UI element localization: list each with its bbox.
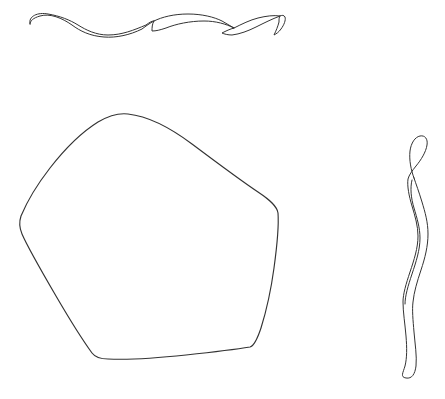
drawing-canvas bbox=[0, 0, 445, 399]
canvas-background bbox=[0, 0, 445, 399]
ink-drawing-surface bbox=[0, 0, 445, 399]
